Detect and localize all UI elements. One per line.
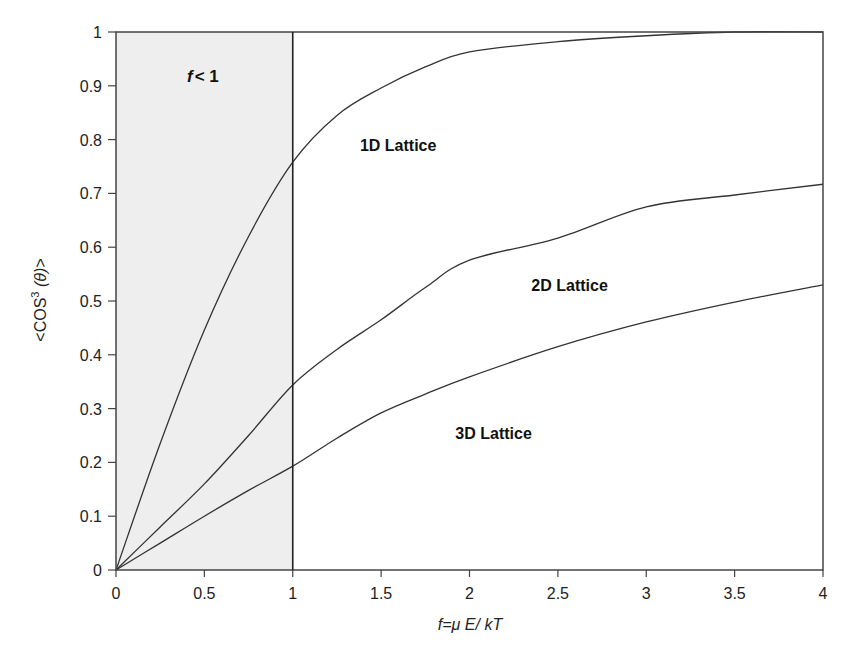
x-tick-label: 4 <box>819 585 828 602</box>
y-tick-label: 0.7 <box>80 185 102 202</box>
y-tick-label: 0.4 <box>80 347 102 364</box>
x-tick-label: 0.5 <box>193 585 215 602</box>
y-tick-label: 0.1 <box>80 508 102 525</box>
x-tick-label: 2.5 <box>547 585 569 602</box>
x-axis-title: f=μ E/ kT <box>438 616 504 633</box>
y-tick-label: 0.6 <box>80 239 102 256</box>
y-tick-label: 0 <box>93 562 102 579</box>
x-tick-label: 1 <box>288 585 297 602</box>
x-tick-label: 0 <box>112 585 121 602</box>
y-tick-label: 0.8 <box>80 132 102 149</box>
y-axis-ticks: 00.10.20.30.40.50.60.70.80.91 <box>80 24 116 579</box>
y-tick-label: 0.5 <box>80 293 102 310</box>
y-tick-label: 0.3 <box>80 401 102 418</box>
series-label-1d-lattice: 1D Lattice <box>360 137 437 154</box>
region-label-f-lt-1: f< 1 <box>187 67 219 86</box>
x-tick-label: 3.5 <box>724 585 746 602</box>
x-tick-label: 1.5 <box>370 585 392 602</box>
y-tick-label: 0.9 <box>80 78 102 95</box>
y-tick-label: 1 <box>93 24 102 41</box>
x-tick-label: 3 <box>642 585 651 602</box>
y-axis-title: <COS3 (θ)> <box>29 258 49 341</box>
series-label-3d-lattice: 3D Lattice <box>455 425 532 442</box>
shaded-region-f-lt-1 <box>116 32 293 570</box>
chart: 00.511.522.533.54 00.10.20.30.40.50.60.7… <box>0 0 864 660</box>
x-tick-label: 2 <box>465 585 474 602</box>
y-tick-label: 0.2 <box>80 454 102 471</box>
series-label-2d-lattice: 2D Lattice <box>531 277 608 294</box>
x-axis-ticks: 00.511.522.533.54 <box>112 570 828 602</box>
